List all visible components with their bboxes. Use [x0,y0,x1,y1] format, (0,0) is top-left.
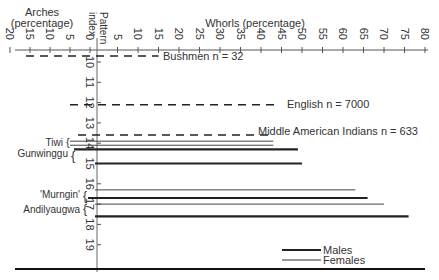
whorls-tick-label: 70 [378,28,390,40]
fingerprint-pattern-chart: Arches (percentage) Whorls (percentage) … [0,0,439,280]
whorls-tick-label: 75 [399,28,411,40]
pattern-index-tick-label: 15 [84,157,96,169]
pattern-index-tick-label: 19 [84,239,96,251]
pattern-index-tick-label: 14 [84,137,96,149]
whorls-tick-label: 45 [276,28,288,40]
label-middle-american-indians: Middle American Indians n = 633 [258,125,418,137]
arches-tick-label: 0 [84,34,96,40]
legend-females-label: Females [323,254,366,266]
whorls-tick-label: 55 [317,28,329,40]
label-gunwinggu: Gunwinggu [17,148,68,159]
whorls-tick-label: 5 [112,34,124,40]
whorls-tick-label: 60 [337,28,349,40]
brace-gunwinggu: { [71,148,76,163]
label-andilyaugwa: Andilyaugwa [23,204,80,215]
pattern-index-ticks: 10111213141516171819 [84,56,101,251]
whorls-tick-label: 50 [296,28,308,40]
pattern-index-tick-label: 18 [84,218,96,230]
whorls-tick-label: 25 [194,28,206,40]
whorls-tick-label: 35 [235,28,247,40]
pattern-index-tick-label: 12 [84,96,96,108]
brace-murngin: { [83,189,87,203]
whorls-tick-label: 65 [358,28,370,40]
pattern-index-title: Pattern [98,12,109,44]
whorls-tick-label: 15 [153,28,165,40]
brace-tiwi: { [66,136,70,148]
brace-andilyaugwa: { [83,202,87,216]
label-tiwi: Tiwi [46,137,63,148]
whorls-tick-label: 80 [419,28,431,40]
whorls-tick-label: 30 [214,28,226,40]
whorls-tick-label: 10 [132,28,144,40]
pattern-index-tick-label: 11 [84,77,96,88]
label-bushmen: Bushmen n = 32 [163,50,243,62]
arches-axis-subtitle: (percentage) [11,17,73,29]
pattern-index-tick-label: 10 [84,56,96,68]
pattern-index-tick-label: 13 [84,117,96,129]
label-english: English n = 7000 [287,98,369,110]
whorls-tick-label: 20 [173,28,185,40]
pattern-index-subtitle: index [87,12,98,36]
arches-tick-label: 15 [24,28,36,40]
label-murngin: 'Murngin' [40,189,80,200]
arches-tick-label: 10 [44,28,56,40]
arches-tick-label: 20 [4,28,16,40]
whorls-tick-label: 40 [255,28,267,40]
arches-tick-label: 5 [64,34,76,40]
